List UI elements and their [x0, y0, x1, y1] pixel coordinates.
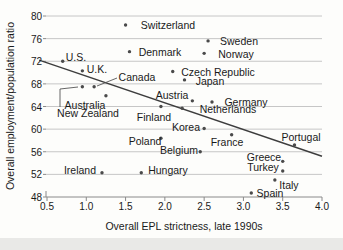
y-tick-label-68: 68 [31, 78, 42, 89]
data-point-netherlands [180, 106, 183, 109]
data-point-australia [104, 94, 107, 97]
x-tick-label-2.5: 2.5 [197, 201, 211, 212]
x-tick-label-1: 1.0 [79, 201, 93, 212]
data-point-ireland [100, 171, 103, 174]
y-tick-label-72: 72 [31, 56, 42, 67]
data-point-sweden [206, 39, 209, 42]
x-tick-label-3: 3.0 [236, 201, 250, 212]
point-label-canada: Canada [119, 72, 156, 83]
y-tick-label-48: 48 [31, 192, 42, 203]
point-label-norway: Norway [218, 49, 254, 60]
y-tick-label-80: 80 [31, 11, 42, 22]
point-label-sweden: Sweden [220, 36, 258, 47]
data-point-finland [159, 105, 162, 108]
point-label-austria: Austria [156, 90, 189, 101]
point-label-japan: Japan [196, 76, 225, 87]
data-point-portugal [293, 143, 296, 146]
point-label-korea: Korea [172, 122, 200, 133]
data-point-czech-republic [171, 70, 174, 73]
point-label-portugal: Portugal [281, 132, 320, 143]
point-label-poland: Poland [129, 136, 162, 147]
y-tick-label-64: 64 [31, 101, 42, 112]
data-point-switzerland [124, 23, 127, 26]
data-point-italy [273, 178, 276, 181]
point-label-u-k: U.K. [87, 64, 107, 75]
point-label-denmark: Denmark [139, 47, 182, 58]
x-tick-label-4: 4.0 [315, 201, 329, 212]
data-point-u-k [81, 69, 84, 72]
y-axis-title: Overall employment/population ratio [4, 22, 16, 190]
x-tick-label-0.5: 0.5 [40, 201, 54, 212]
point-label-belgium: Belgium [160, 145, 198, 156]
point-label-france: France [211, 137, 244, 148]
data-point-greece [281, 160, 284, 163]
epl-employment-scatter-chart: U.S.U.K.CanadaNew ZealandAustraliaSwitze… [0, 0, 343, 250]
point-label-finland: Finland [137, 112, 171, 123]
data-point-austria [191, 99, 194, 102]
x-axis-title: Overall EPL strictness, late 1990s [105, 220, 262, 232]
data-point-canada [92, 85, 95, 88]
leader-line-canada [97, 78, 117, 86]
data-point-new-zealand [81, 85, 84, 88]
y-tick-label-56: 56 [31, 146, 42, 157]
data-point-spain [250, 191, 253, 194]
point-label-u-s: U.S. [66, 52, 86, 63]
data-point-japan [183, 78, 186, 81]
x-tick-label-2: 2.0 [158, 201, 172, 212]
x-tick-label-1.5: 1.5 [119, 201, 133, 212]
point-label-ireland: Ireland [64, 165, 96, 176]
y-tick-label-60: 60 [31, 124, 42, 135]
point-label-australia: Australia [65, 100, 106, 111]
y-tick-label-52: 52 [31, 169, 42, 180]
data-point-hungary [140, 171, 143, 174]
point-label-hungary: Hungary [148, 165, 188, 176]
x-tick-label-3.5: 3.5 [276, 201, 290, 212]
data-point-belgium [199, 150, 202, 153]
data-point-denmark [128, 50, 131, 53]
y-tick-label-76: 76 [31, 33, 42, 44]
data-point-u-s [61, 60, 64, 63]
data-point-korea [202, 127, 205, 130]
point-label-netherlands: Netherlands [200, 104, 257, 115]
data-point-turkey [281, 169, 284, 172]
point-label-turkey: Turkey [247, 162, 279, 173]
point-label-switzerland: Switzerland [141, 20, 195, 31]
point-label-spain: Spain [257, 188, 284, 199]
data-point-norway [202, 52, 205, 55]
